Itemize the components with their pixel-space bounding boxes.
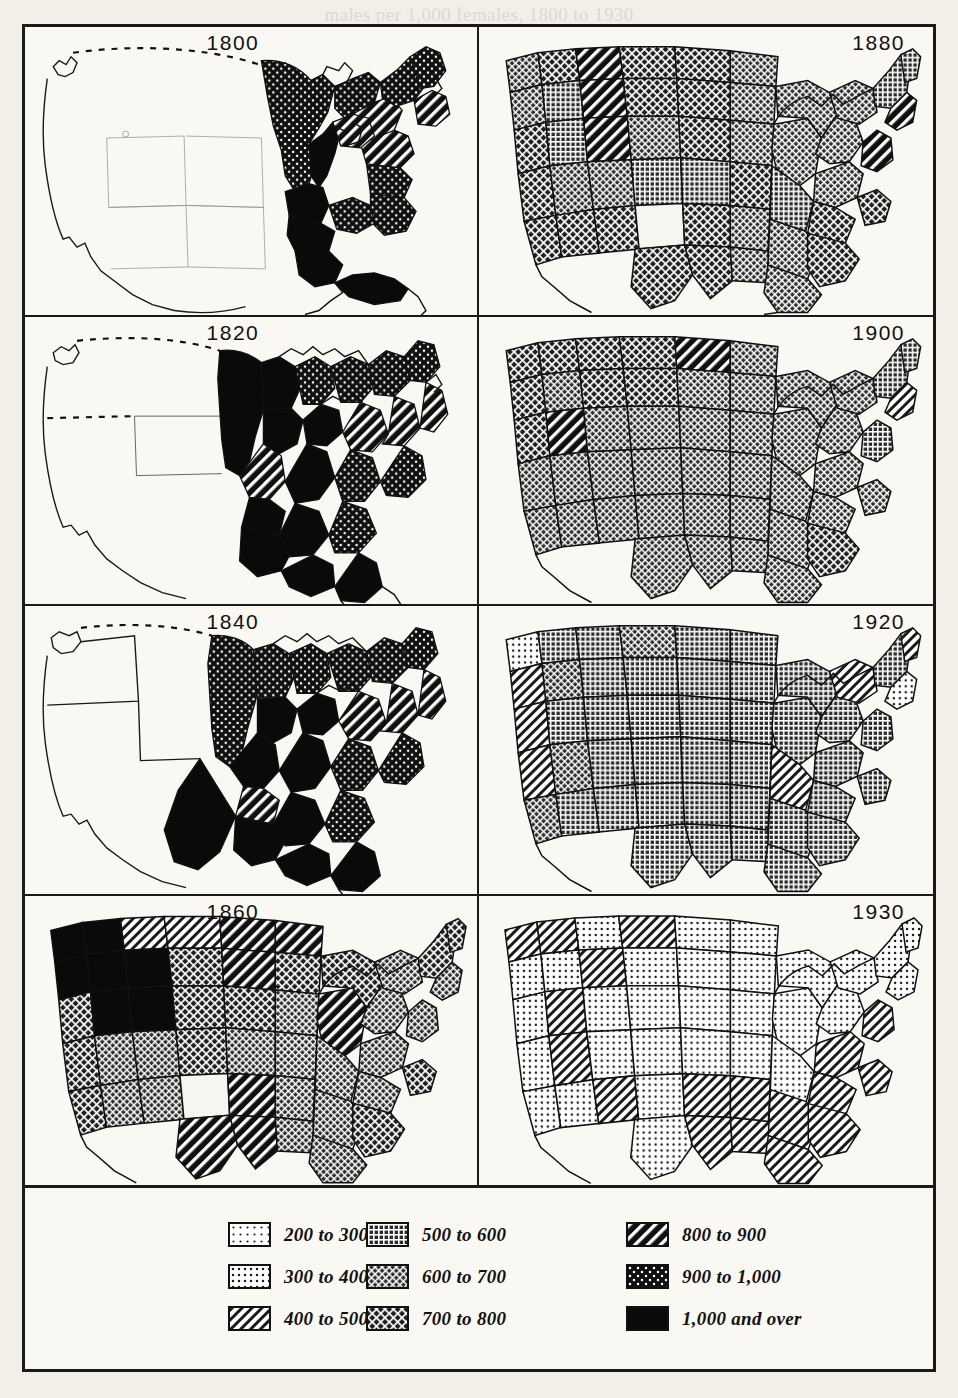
map-grid: 1800: [25, 27, 933, 1185]
legend-swatch-bold-diagonal-dark: [626, 1222, 669, 1247]
legend-item[interactable]: 200 to 300: [228, 1222, 344, 1247]
map-panel-1840[interactable]: 1840: [25, 606, 479, 896]
panel-year-label: 1820: [207, 321, 260, 345]
map-panel-1920[interactable]: 1920: [479, 606, 933, 896]
legend-swatch-dense-crosshatch: [366, 1264, 409, 1289]
legend-item[interactable]: 1,000 and over: [626, 1306, 864, 1331]
map-panel-1800[interactable]: 1800: [25, 27, 479, 317]
legend-item[interactable]: 800 to 900: [626, 1222, 864, 1247]
legend-item[interactable]: 500 to 600: [366, 1222, 594, 1247]
us-map-1880: [479, 27, 933, 315]
legend-swatch-fine-dots: [228, 1264, 271, 1289]
map-legend: 200 to 300 300 to 400 400 to 500 500: [25, 1185, 933, 1369]
legend-item[interactable]: 400 to 500: [228, 1306, 344, 1331]
us-map-1860: [25, 896, 477, 1186]
us-map-1930: [479, 896, 933, 1186]
legend-label: 700 to 800: [422, 1308, 506, 1330]
map-panel-1930[interactable]: 1930: [479, 896, 933, 1186]
us-map-1920: [479, 606, 933, 894]
legend-item[interactable]: 700 to 800: [366, 1306, 594, 1331]
map-panel-1860[interactable]: 1860: [25, 896, 479, 1186]
legend-label: 900 to 1,000: [682, 1266, 781, 1288]
panel-year-label: 1800: [207, 31, 260, 55]
panel-year-label: 1880: [852, 31, 905, 55]
legend-swatch-dense-grid: [366, 1222, 409, 1247]
legend-column-2: 500 to 600 600 to 700 700 to 800: [344, 1222, 594, 1331]
us-map-1840: [25, 606, 477, 894]
legend-swatch-diagonal-hatch-light: [228, 1306, 271, 1331]
legend-swatch-heavy-crosshatch: [366, 1306, 409, 1331]
legend-swatch-solid-black: [626, 1306, 669, 1331]
panel-year-label: 1930: [852, 900, 905, 924]
panel-year-label: 1900: [852, 321, 905, 345]
map-panel-1880[interactable]: 1880: [479, 27, 933, 317]
map-panel-1900[interactable]: 1900: [479, 317, 933, 607]
legend-item[interactable]: 900 to 1,000: [626, 1264, 864, 1289]
us-map-1900: [479, 317, 933, 605]
legend-swatch-sparse-dots: [228, 1222, 271, 1247]
legend-label: 600 to 700: [422, 1266, 506, 1288]
legend-column-3: 800 to 900 900 to 1,000 1,000 and over: [594, 1222, 864, 1331]
legend-item[interactable]: 300 to 400: [228, 1264, 344, 1289]
legend-label: 500 to 600: [422, 1224, 506, 1246]
us-map-1820: [25, 317, 477, 605]
panel-year-label: 1840: [207, 610, 260, 634]
panel-year-label: 1920: [852, 610, 905, 634]
legend-item[interactable]: 600 to 700: [366, 1264, 594, 1289]
legend-label: 800 to 900: [682, 1224, 766, 1246]
legend-label: 1,000 and over: [682, 1308, 802, 1330]
legend-swatch-dark-with-dots: [626, 1264, 669, 1289]
map-panel-1820[interactable]: 1820: [25, 317, 479, 607]
legend-column-1: 200 to 300 300 to 400 400 to 500: [94, 1222, 344, 1331]
map-plate: 1800: [22, 24, 936, 1372]
panel-year-label: 1860: [207, 900, 260, 924]
us-map-1800: [25, 27, 477, 315]
